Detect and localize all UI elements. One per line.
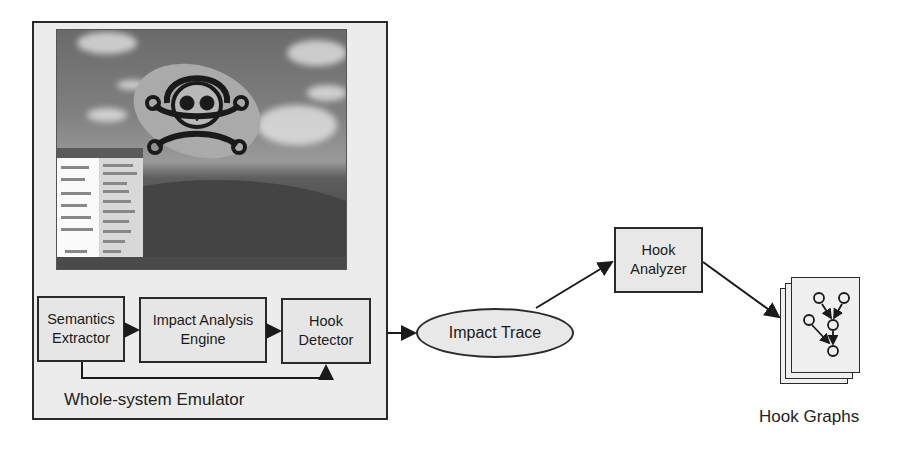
semantics-extractor-label-line2: Extractor [47,329,115,348]
hook-graphs-label: Hook Graphs [759,407,859,427]
skull-background-blob [121,48,272,174]
cloud [87,108,127,122]
impact-trace-node: Impact Trace [416,308,574,358]
cloud [257,105,337,145]
start-menu [57,148,143,266]
cloud [307,85,347,101]
taskbar [57,257,346,269]
start-menu-left-column [57,158,99,266]
impact-trace-label: Impact Trace [449,324,541,342]
hook-analyzer-box: Hook Analyzer [614,227,703,293]
hook-detector-label-line2: Detector [299,331,354,350]
hook-graph-tree-icon [791,277,861,373]
impact-analysis-engine-label-line2: Engine [153,330,254,349]
hook-analyzer-label-line1: Hook [630,241,686,260]
hook-detector-box: Hook Detector [281,298,371,364]
impact-analysis-engine-box: Impact Analysis Engine [139,297,267,363]
edge-impact-trace-to-hook-analyzer [536,262,612,308]
cloud [287,40,347,66]
hook-detector-label-line1: Hook [299,312,354,331]
cloud [77,32,137,54]
desktop-screenshot [56,29,347,270]
edge-hook-analyzer-to-hook-graphs [703,262,779,317]
start-menu-right-column [99,158,143,266]
semantics-extractor-box: Semantics Extractor [37,296,125,362]
hook-analyzer-label-line2: Analyzer [630,260,686,279]
whole-system-emulator-label: Whole-system Emulator [64,390,244,410]
semantics-extractor-label-line1: Semantics [47,310,115,329]
impact-analysis-engine-label-line1: Impact Analysis [153,311,254,330]
